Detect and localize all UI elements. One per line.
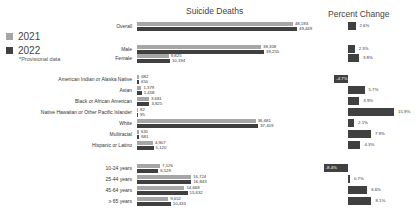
category-label: 10-24 years (0, 165, 132, 171)
bar-2021 (137, 22, 293, 26)
bar-2021 (137, 75, 139, 79)
bar-2022 (137, 80, 139, 84)
bar-2021 (137, 175, 191, 179)
percent-bar (348, 130, 371, 138)
percent-value: 3.8% (363, 54, 373, 62)
category-label: Black or African American (0, 98, 132, 104)
bar-2022 (137, 146, 154, 150)
percent-bar (348, 54, 359, 62)
category-label: 25-44 years (0, 176, 132, 182)
percent-value: 2.1% (358, 119, 368, 127)
value-2022: 15,632 (190, 191, 203, 195)
value-2022: 95 (140, 113, 145, 117)
deaths-chart-title: Suicide Deaths (186, 6, 243, 16)
bar-2022 (137, 191, 188, 195)
percent-bar (348, 175, 350, 183)
legend-label: 2021 (18, 31, 40, 42)
category-label: American Indian or Alaska Native (0, 76, 132, 82)
value-2022: 3,825 (151, 102, 162, 106)
value-2022: 650 (141, 80, 148, 84)
bar-2022 (137, 113, 138, 117)
value-2022: 1,458 (144, 91, 155, 95)
bar-2021 (137, 108, 138, 112)
bar-2021 (137, 97, 149, 101)
percent-value: 15.9% (398, 108, 410, 116)
percent-value: 3.9% (363, 97, 373, 105)
bar-2022 (137, 91, 142, 95)
category-label: Multiracial (0, 131, 132, 137)
bar-2021 (137, 54, 169, 58)
percent-value: 2.6% (360, 22, 370, 30)
category-label: Female (0, 55, 132, 61)
percent-bar (348, 119, 354, 127)
percent-bar (348, 108, 394, 116)
bar-2021 (137, 141, 153, 145)
percent-bar (348, 97, 359, 105)
value-2022: 39,255 (266, 50, 279, 54)
category-label: Hispanic or Latino (0, 142, 132, 148)
category-label: White (0, 120, 132, 126)
value-2022: 5,120 (156, 146, 167, 150)
percent-bar (348, 186, 367, 194)
bar-2022 (137, 27, 297, 31)
bar-2021 (137, 130, 139, 134)
bar-2022 (137, 124, 258, 128)
category-label: ≥ 65 years (0, 198, 132, 204)
value-2022: 37,459 (260, 124, 273, 128)
category-label: 45-64 years (0, 187, 132, 193)
bar-2022 (137, 169, 158, 173)
bar-2022 (137, 202, 171, 206)
bar-2021 (137, 197, 168, 201)
percent-bar (348, 45, 355, 53)
value-2022: 10,433 (173, 202, 186, 206)
value-2022: 6,529 (160, 169, 171, 173)
value-2022: 49,449 (299, 27, 312, 31)
percent-chart-title: Percent Change (328, 9, 389, 19)
percent-value: 4.3% (364, 141, 374, 149)
legend-swatch-2021 (6, 33, 13, 40)
value-2022: 10,194 (172, 59, 185, 63)
percent-value: -8.4% (326, 164, 337, 172)
percent-value: -4.7% (336, 75, 347, 83)
bar-2022 (137, 50, 264, 54)
percent-value: 8.1% (375, 197, 385, 205)
percent-bar (348, 22, 356, 30)
percent-bar (348, 197, 371, 205)
bar-2022 (137, 135, 139, 139)
value-2022: 16,843 (193, 180, 206, 184)
percent-value: 2.3% (359, 45, 369, 53)
percent-bar (348, 141, 360, 149)
bar-2022 (137, 180, 191, 184)
bar-2022 (137, 102, 149, 106)
bar-2021 (137, 45, 261, 49)
percent-value: 0.7% (354, 175, 364, 183)
percent-value: 5.7% (369, 86, 379, 94)
category-label: Native Hawaiian or Other Pacific Islande… (0, 109, 132, 115)
percent-bar (348, 86, 365, 94)
bar-2021 (137, 119, 256, 123)
legend-item-2021: 2021 (6, 30, 60, 42)
value-2022: 681 (141, 135, 148, 139)
bar-2021 (137, 86, 141, 90)
percent-value: 6.6% (371, 186, 381, 194)
category-label: Asian (0, 87, 132, 93)
category-label: Male (0, 46, 132, 52)
bar-2022 (137, 59, 170, 63)
bar-2021 (137, 186, 184, 190)
bar-2021 (137, 164, 160, 168)
percent-value: 7.9% (375, 130, 385, 138)
category-label: Overall (0, 23, 132, 29)
